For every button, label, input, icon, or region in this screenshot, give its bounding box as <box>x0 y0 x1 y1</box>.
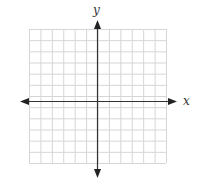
x-axis-right-arrow-icon <box>168 98 177 105</box>
y-axis-up-arrow-icon <box>94 20 101 29</box>
coordinate-plane: y x <box>0 0 199 180</box>
y-axis-down-arrow-icon <box>94 169 101 178</box>
y-axis <box>94 20 101 178</box>
y-axis-label: y <box>92 3 100 17</box>
x-axis-label: x <box>183 94 190 108</box>
x-axis-left-arrow-icon <box>20 98 29 105</box>
